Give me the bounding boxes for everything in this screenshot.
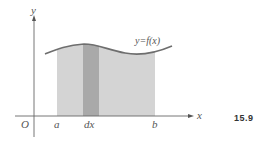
x-axis-arrow-icon: [188, 114, 194, 118]
dx-strip: [83, 44, 99, 116]
x-axis-label: x: [197, 110, 202, 121]
figure-number: 15.9: [234, 114, 254, 123]
figure-canvas: [0, 0, 270, 143]
origin-label: O: [21, 119, 29, 130]
tick-label-b: b: [152, 119, 158, 130]
integral-area-figure: y x O a dx b y=f(x) 15.9: [0, 0, 270, 143]
y-axis-label: y: [31, 5, 36, 16]
tick-label-dx: dx: [84, 119, 94, 130]
tick-label-a: a: [54, 119, 60, 130]
curve-label: y=f(x): [135, 36, 160, 46]
